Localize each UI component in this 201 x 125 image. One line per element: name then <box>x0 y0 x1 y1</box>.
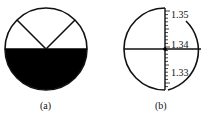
crosshair-center <box>163 47 167 51</box>
panel-a-field-of-view <box>5 8 87 90</box>
view-circle-right-arc <box>168 21 198 90</box>
caption-b: (b) <box>155 100 167 111</box>
scale-label-1-35: 1.35 <box>171 9 189 20</box>
panel-b-field-of-view <box>124 8 201 90</box>
scale-label-1-34: 1.34 <box>171 39 189 50</box>
scale-label-1-33: 1.33 <box>171 67 189 78</box>
crosshair-line-left <box>17 20 46 49</box>
caption-a: (a) <box>40 100 51 111</box>
crosshair-line-right <box>46 20 75 49</box>
dark-half <box>5 49 87 90</box>
